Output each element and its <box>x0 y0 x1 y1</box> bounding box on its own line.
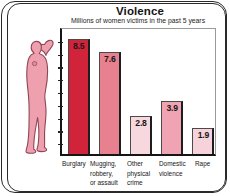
x-axis-label-line: crime <box>127 178 150 188</box>
x-axis-label: Burglary <box>62 159 86 169</box>
plot-area: 8.57.62.83.91.9 <box>60 28 216 156</box>
x-axis-label-line: physical <box>127 169 150 179</box>
x-axis-label: Mugging,robbery,or assault <box>90 159 118 188</box>
woman-silhouette-shape <box>26 40 53 153</box>
bar[interactable] <box>68 39 90 154</box>
x-axis-label: Domesticviolence <box>159 159 186 178</box>
bar-value-label: 3.9 <box>161 103 183 113</box>
x-axis-label-line: Other <box>127 159 150 169</box>
bars-layer: 8.57.62.83.91.9 <box>62 29 215 154</box>
x-axis-label-line: or assault <box>90 178 118 188</box>
x-axis-label-line: Burglary <box>62 159 86 169</box>
bar[interactable] <box>99 52 121 154</box>
bar-value-label: 8.5 <box>68 41 90 51</box>
bar-slot: 2.8 <box>130 26 152 154</box>
x-axis-label: Rape <box>195 159 210 169</box>
x-axis-label: Otherphysicalcrime <box>127 159 150 188</box>
bar-slot: 7.6 <box>99 26 121 154</box>
bar-value-label: 1.9 <box>192 130 214 140</box>
bar-slot: 8.5 <box>68 26 90 154</box>
bar-value-label: 2.8 <box>130 118 152 128</box>
x-axis-label-line: Mugging, <box>90 159 118 169</box>
chart-subtitle: Millions of women victims in the past 5 … <box>46 17 230 24</box>
x-axis-label-line: Rape <box>195 159 210 169</box>
chart-title: Violence <box>60 5 220 17</box>
silhouette-detail-mark <box>32 62 37 66</box>
bar-slot: 3.9 <box>161 26 183 154</box>
bar-slot: 1.9 <box>192 26 214 154</box>
bar-value-label: 7.6 <box>99 54 121 64</box>
x-axis-label-line: violence <box>159 169 186 179</box>
x-axis-label-line: Domestic <box>159 159 186 169</box>
x-axis-label-line: robbery, <box>90 169 118 179</box>
x-axis-category-labels: BurglaryMugging,robbery,or assaultOtherp… <box>60 159 226 195</box>
chart-card: Violence Millions of women victims in th… <box>0 0 230 196</box>
woman-silhouette-illustration <box>14 38 62 156</box>
